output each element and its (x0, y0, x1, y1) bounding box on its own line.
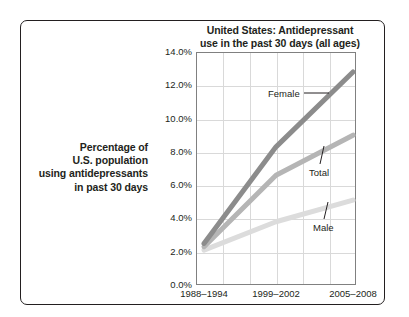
y-tick-label: 6.0% (140, 179, 192, 190)
y-axis-caption: Percentage of U.S. population using anti… (28, 141, 148, 194)
series-lines (196, 52, 356, 285)
annotation-male: Male (313, 222, 334, 233)
x-tick-label: 1999–2002 (241, 288, 311, 299)
annotation-total-label: Total (309, 167, 329, 178)
chart-title: United States: Antidepressant use in the… (175, 24, 385, 50)
annotation-male-label: Male (313, 222, 334, 233)
y-axis-caption-line-1: Percentage of (28, 141, 148, 154)
x-axis-tick-labels: 1988–19941999–20022005–2008 (150, 288, 390, 304)
y-tick-label: 10.0% (140, 113, 192, 124)
y-axis-tick-labels: 0.0%2.0%4.0%6.0%8.0%10.0%12.0%14.0% (140, 45, 192, 292)
y-axis-caption-line-2: U.S. population (28, 154, 148, 167)
y-tick-label: 14.0% (140, 46, 192, 57)
chart-root: United States: Antidepressant use in the… (0, 0, 409, 317)
y-axis-caption-line-4: in past 30 days (28, 181, 148, 194)
y-tick-label: 4.0% (140, 212, 192, 223)
chart-title-line-1: United States: Antidepressant (175, 24, 385, 37)
x-tick-label: 2005–2008 (318, 288, 388, 299)
y-tick-label: 2.0% (140, 246, 192, 257)
annotation-total: Total (309, 167, 329, 178)
y-axis-caption-line-3: using antidepressants (28, 167, 148, 180)
annotation-female-label: Female (268, 88, 300, 99)
x-tick-label: 1988–1994 (169, 288, 239, 299)
y-tick-label: 12.0% (140, 79, 192, 90)
annotation-female: Female (268, 88, 300, 99)
y-tick-label: 8.0% (140, 146, 192, 157)
chart-title-line-2: use in the past 30 days (all ages) (175, 37, 385, 50)
